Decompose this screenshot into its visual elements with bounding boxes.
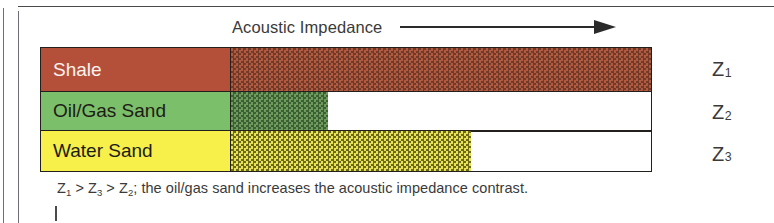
caption-z-a-sub: 1	[66, 187, 71, 198]
table-row: Oil/Gas Sand	[40, 91, 652, 132]
z-symbol: Z	[712, 101, 724, 124]
row-label-text: Oil/Gas Sand	[53, 100, 166, 122]
caption-z-b-sub: 3	[97, 187, 102, 198]
z-symbol: Z	[712, 58, 724, 81]
page-top-rule	[18, 6, 774, 7]
impedance-bar-oil-gas-sand	[230, 92, 328, 131]
figure-caption: Z1 > Z3 > Z2; the oil/gas sand increases…	[57, 180, 528, 196]
z-subscript: 1	[725, 66, 732, 80]
arrow-shaft	[400, 26, 600, 28]
page-left-rule	[3, 8, 4, 223]
z-label-3: Z3	[712, 133, 768, 175]
row-label-text: Shale	[53, 59, 102, 81]
caption-op-1: >	[71, 180, 88, 196]
caption-z-b: Z	[88, 180, 97, 196]
caption-z-c: Z	[119, 180, 128, 196]
caption-op-2: >	[102, 180, 119, 196]
impedance-rows: Shale Oil/Gas Sand Water Sand	[40, 47, 652, 172]
z-subscript: 2	[725, 109, 732, 123]
row-label-oil-gas-sand: Oil/Gas Sand	[41, 92, 230, 131]
z-subscript: 3	[725, 150, 732, 164]
row-label-shale: Shale	[41, 48, 230, 91]
impedance-symbol-column: Z1 Z2 Z3	[712, 47, 768, 175]
figure-frame-left-border	[18, 11, 19, 223]
caption-z-c-sub: 2	[128, 187, 133, 198]
table-row: Water Sand	[40, 130, 652, 172]
arrow-right-icon	[400, 20, 622, 34]
axis-title-label: Acoustic Impedance	[232, 18, 382, 37]
z-label-1: Z1	[712, 47, 768, 92]
caption-z-a: Z	[57, 180, 66, 196]
acoustic-impedance-axis: Acoustic Impedance	[232, 15, 622, 39]
impedance-bar-water-sand	[230, 131, 471, 171]
impedance-bar-shale	[230, 48, 651, 91]
row-label-text: Water Sand	[53, 140, 153, 162]
table-row: Shale	[40, 47, 652, 92]
z-symbol: Z	[712, 143, 724, 166]
row-label-water-sand: Water Sand	[41, 131, 230, 171]
page-bottom-tick-mark	[55, 206, 57, 221]
arrow-head	[594, 20, 616, 34]
z-label-2: Z2	[712, 92, 768, 133]
caption-tail: ; the oil/gas sand increases the acousti…	[133, 180, 528, 196]
